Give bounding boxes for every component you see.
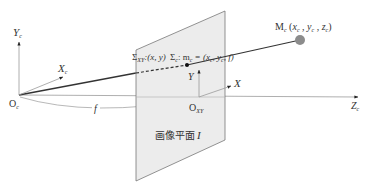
label-oc: Oc — [9, 98, 19, 110]
label-sigma-caption: ΣXY:(x, y) Σc: mc = (xc, yc, f) — [132, 52, 234, 63]
image-plane — [136, 11, 225, 181]
pinhole-camera-diagram: Yc Xc Oc Zc f ΣXY:(x, y) Σc: mc = (xc, y… — [0, 0, 370, 190]
label-zc: Zc — [351, 100, 360, 112]
image-point-mc — [185, 63, 189, 67]
camera-x-axis — [19, 77, 63, 95]
label-image-plane: 画像平面I — [155, 129, 202, 141]
projection-ray-front — [19, 73, 136, 95]
label-xc: Xc — [57, 62, 68, 75]
world-point-m — [295, 35, 305, 45]
label-world-point: Mc (xc , yc , zc) — [275, 21, 332, 33]
label-yc: Yc — [13, 26, 22, 39]
label-image-x: X — [233, 77, 242, 89]
